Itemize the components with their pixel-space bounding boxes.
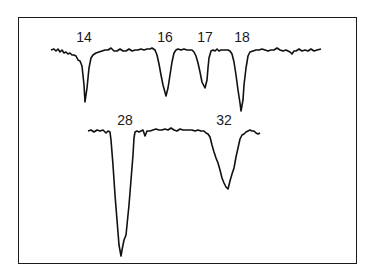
lower-trace (88, 128, 260, 256)
peak-label-16: 16 (157, 30, 173, 44)
upper-trace (51, 48, 321, 111)
peak-label-14: 14 (76, 30, 92, 44)
peak-label-17: 17 (197, 30, 213, 44)
peak-label-28: 28 (117, 113, 133, 127)
peak-label-18: 18 (234, 30, 250, 44)
peak-label-32: 32 (216, 113, 232, 127)
spectrum-plot (0, 0, 371, 279)
